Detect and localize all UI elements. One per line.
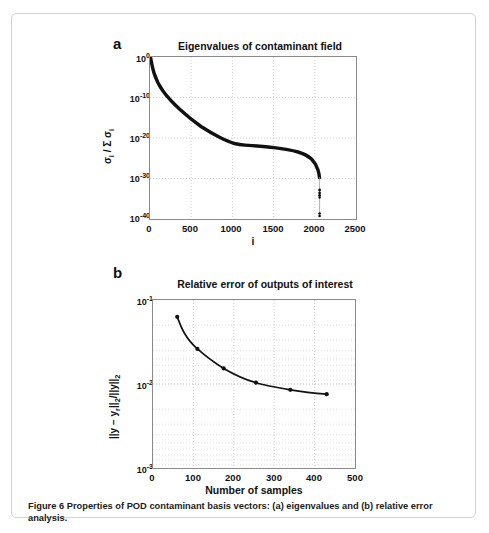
panel-a-ylabel-sigma: σ	[102, 157, 113, 164]
panel-a-ytick-0: 100	[110, 52, 150, 64]
panel-b-ylabel: ||y − yr||2/||y||2	[108, 374, 122, 439]
panel-b-error-curve	[177, 317, 327, 394]
panel-b-xtick-2: 200	[219, 472, 247, 483]
panel-a-xtick-3: 1500	[259, 223, 287, 234]
panel-b-title: Relative error of outputs of interest	[158, 278, 372, 290]
panel-b-ylabel-sub-2b: 2	[113, 374, 122, 378]
panel-b-svg	[153, 300, 355, 468]
panel-a-xtick-4: 2000	[300, 223, 328, 234]
panel-b-ylabel-sub-r: r	[113, 408, 122, 411]
panel-b-xtick-5: 500	[341, 472, 369, 483]
panel-b-ylabel-p1: ||y − y	[108, 411, 119, 439]
panel-b-xtick-1: 100	[179, 472, 207, 483]
panel-b-xtick-0: 0	[138, 472, 166, 483]
panel-a-ylabel-sub2: i	[107, 129, 116, 131]
panel-a-ylabel: σi / Σ σi	[102, 129, 116, 164]
panel-a-ylabel-sub1: i	[107, 155, 116, 157]
panel-b-ylabel-sub-2a: 2	[113, 398, 122, 402]
panel-a-ytick-2: 10-20	[110, 132, 150, 144]
panel-a-xtick-1: 500	[176, 223, 204, 234]
panel-a-eigenvalue-curve	[151, 58, 320, 178]
panel-a-xtick-5: 2500	[341, 223, 369, 234]
panel-a-plot-area	[149, 56, 357, 220]
panel-b-xtick-4: 400	[300, 472, 328, 483]
panel-a-ytick-1: 10-10	[110, 92, 150, 104]
panel-b-ylabel-p2: ||	[108, 402, 119, 408]
panel-a-xtick-2: 1000	[217, 223, 245, 234]
panel-b-plot-area	[152, 299, 356, 469]
panel-b-xtick-3: 300	[260, 472, 288, 483]
figure-card: a Eigenvalues of contaminant field 100 1…	[11, 13, 476, 518]
panel-b-xlabel: Number of samples	[194, 484, 314, 496]
panel-a-label: a	[113, 35, 121, 52]
panel-b-ylabel-p3: /||y||	[108, 379, 119, 399]
panel-a-ylabel-mid: / Σ σ	[102, 131, 113, 155]
panel-b-ytick-0: 10-1	[113, 295, 153, 307]
panel-a-svg	[150, 57, 356, 219]
panel-a-xlabel: i	[229, 235, 277, 247]
figure-caption: Figure 6 Properties of POD contaminant b…	[28, 501, 464, 524]
panel-a-title: Eigenvalues of contaminant field	[162, 40, 358, 52]
panel-b-vertical-gridlines	[193, 300, 314, 468]
panel-b-label: b	[113, 264, 122, 281]
panel-a-xtick-0: 0	[135, 223, 163, 234]
panel-a-ytick-3: 10-30	[110, 172, 150, 184]
